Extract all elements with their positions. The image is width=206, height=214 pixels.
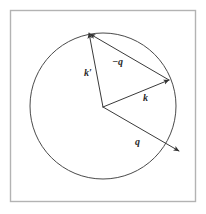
vector-label-minus-q: −q — [112, 56, 123, 67]
scattering-diagram-figure: k′k−qq — [0, 0, 206, 214]
vector-label-k: k — [143, 92, 148, 103]
vector-group — [89, 33, 179, 151]
vector-label-k-prime: k′ — [84, 67, 92, 78]
vector-label-q: q — [135, 136, 140, 147]
vector-arrow-k — [103, 80, 169, 107]
diagram-canvas: k′k−qq — [0, 0, 206, 214]
vector-arrow-q — [103, 107, 179, 151]
